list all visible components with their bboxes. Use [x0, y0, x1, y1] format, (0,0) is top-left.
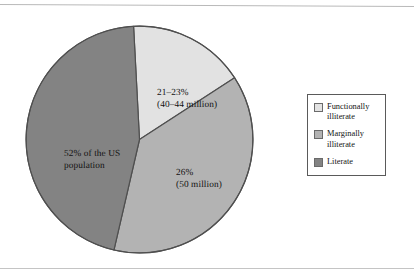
legend-item-label: Marginally illiterate: [327, 129, 364, 149]
pie-label-literate: 52% of the US population: [64, 148, 120, 173]
pie-slices: [26, 26, 253, 253]
legend-item-label: Functionally illiterate: [327, 102, 369, 122]
legend-item[interactable]: Functionally illiterate: [314, 102, 380, 122]
pie-chart-svg: [24, 24, 255, 255]
pie-chart: 21–23% (40–44 million) 26% (50 million) …: [24, 24, 255, 255]
legend-swatch-marginally-illiterate: [314, 130, 323, 139]
page-rule-top: [0, 4, 414, 7]
legend-item[interactable]: Marginally illiterate: [314, 129, 380, 149]
pie-label-functionally-illiterate: 21–23% (40–44 million): [157, 87, 217, 112]
legend-item[interactable]: Literate: [314, 157, 380, 167]
pie-label-marginally-illiterate: 26% (50 million): [176, 167, 222, 192]
pie-chart-figure: 21–23% (40–44 million) 26% (50 million) …: [0, 0, 414, 277]
chart-legend: Functionally illiterate Marginally illit…: [307, 94, 386, 176]
page-rule-bottom: [0, 268, 414, 269]
legend-swatch-functionally-illiterate: [314, 103, 323, 112]
legend-item-label: Literate: [327, 157, 353, 167]
legend-swatch-literate: [314, 158, 323, 167]
